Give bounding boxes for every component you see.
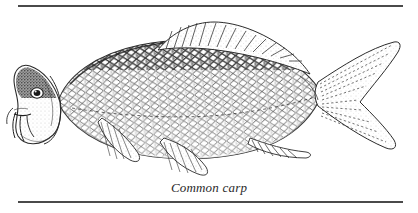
common-carp-illustration	[0, 10, 418, 178]
eye	[31, 88, 43, 98]
bottom-horizontal-rule	[18, 201, 403, 203]
fish-illustration-area	[0, 10, 418, 178]
figure-caption: Common carp	[0, 180, 418, 196]
head	[7, 65, 68, 146]
top-horizontal-rule	[18, 5, 403, 7]
anal-fin	[248, 138, 311, 158]
figure-plate: Common carp	[0, 0, 418, 213]
caudal-fin	[315, 42, 400, 149]
